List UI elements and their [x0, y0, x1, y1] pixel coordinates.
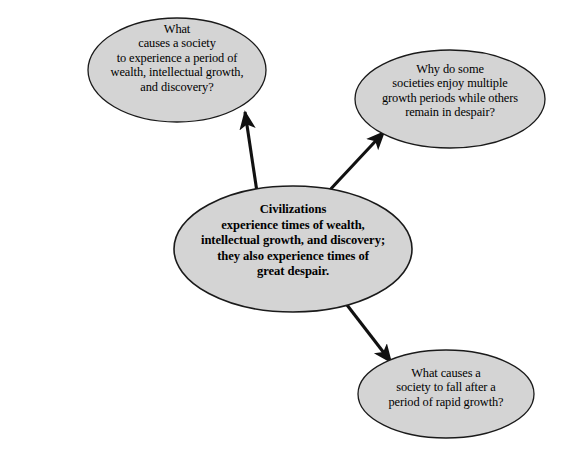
arrow-to-multiple-periods [327, 132, 384, 193]
node-ellipse-central[interactable] [174, 186, 412, 312]
node-ellipse-question-fall-after-growth[interactable] [358, 350, 534, 438]
node-ellipse-question-growth-cause[interactable] [88, 18, 266, 122]
ellipse-layer [88, 18, 545, 438]
arrow-to-growth-cause [245, 112, 257, 192]
node-ellipse-question-multiple-periods[interactable] [355, 50, 545, 148]
concept-map-graphic [0, 0, 571, 454]
arrow-to-fall-after-growth [347, 305, 391, 362]
diagram-canvas: What causes a society to experience a pe… [0, 0, 571, 454]
